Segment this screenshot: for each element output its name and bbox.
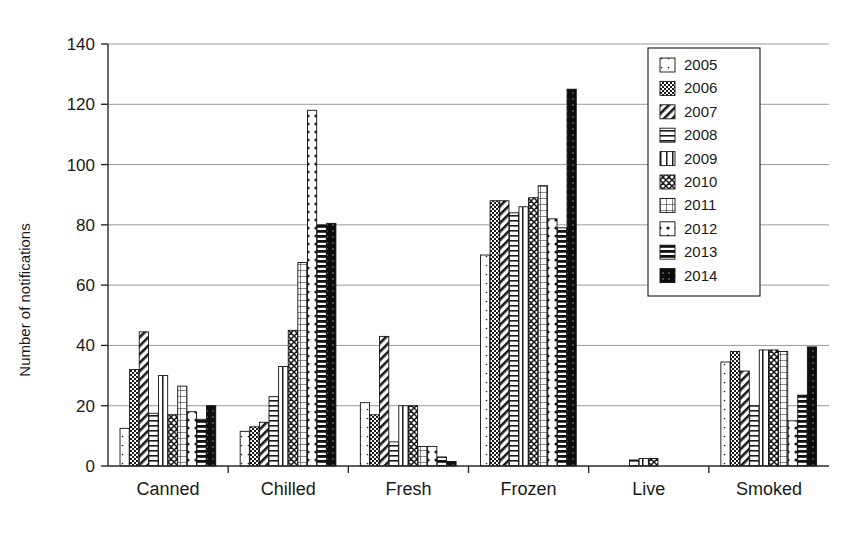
- legend-label-2013: 2013: [684, 243, 717, 260]
- bar-chilled-2006: [250, 427, 259, 466]
- bar-smoked-2014: [807, 347, 816, 466]
- bar-live-2010: [649, 458, 658, 466]
- bar-fresh-2006: [370, 415, 379, 466]
- bar-fresh-2007: [380, 336, 389, 466]
- legend-swatch-2005: [660, 58, 675, 72]
- bar-chilled-2014: [327, 223, 336, 466]
- bar-chilled-2010: [288, 330, 297, 466]
- legend-label-2014: 2014: [684, 267, 717, 284]
- bar-chilled-2007: [259, 422, 268, 466]
- bar-fresh-2012: [428, 446, 437, 466]
- bar-chilled-2011: [298, 263, 307, 466]
- bar-canned-2011: [178, 386, 187, 466]
- bar-frozen-2014: [567, 89, 576, 466]
- legend-swatch-2011: [660, 198, 675, 212]
- legend-label-2012: 2012: [684, 220, 717, 237]
- category-label-live: Live: [632, 479, 665, 499]
- bar-frozen-2005: [481, 255, 490, 466]
- legend-label-2005: 2005: [684, 56, 717, 73]
- bar-canned-2007: [139, 332, 148, 466]
- legend: 2005200620072008200920102011201220132014: [648, 48, 760, 296]
- legend-swatch-2012: [660, 222, 675, 236]
- bar-live-2009: [639, 458, 648, 466]
- bar-smoked-2006: [730, 351, 739, 466]
- legend-label-2008: 2008: [684, 126, 717, 143]
- y-tick-label-0: 0: [86, 457, 95, 476]
- bar-fresh-2009: [399, 406, 408, 466]
- bar-frozen-2009: [519, 207, 528, 466]
- legend-label-2011: 2011: [684, 196, 716, 213]
- legend-swatch-2006: [660, 81, 675, 95]
- bar-smoked-2009: [759, 350, 768, 466]
- legend-label-2006: 2006: [684, 79, 717, 96]
- legend-swatch-2014: [660, 269, 675, 283]
- bar-fresh-2005: [360, 403, 369, 466]
- y-axis-title: Number of notifications: [16, 223, 33, 376]
- legend-swatch-2008: [660, 128, 675, 142]
- bar-chart: 020406080100120140 CannedChilledFreshFro…: [0, 0, 863, 533]
- bar-chilled-2008: [269, 397, 278, 466]
- bar-chilled-2013: [317, 225, 326, 466]
- bar-canned-2006: [130, 370, 139, 466]
- bar-smoked-2008: [750, 406, 759, 466]
- legend-label-2007: 2007: [684, 103, 717, 120]
- y-tick-label-100: 100: [67, 156, 95, 175]
- legend-swatch-2010: [660, 175, 675, 189]
- bar-fresh-2008: [389, 442, 398, 466]
- bar-frozen-2010: [529, 198, 538, 466]
- y-tick-label-120: 120: [67, 95, 95, 114]
- bar-canned-2012: [187, 412, 196, 466]
- category-label-chilled: Chilled: [261, 479, 316, 499]
- legend-label-2009: 2009: [684, 150, 717, 167]
- bar-smoked-2011: [779, 351, 788, 466]
- bar-chilled-2012: [307, 110, 316, 466]
- y-tick-label-140: 140: [67, 35, 95, 54]
- bar-chilled-2009: [279, 367, 288, 466]
- bar-canned-2009: [158, 376, 167, 466]
- category-label-fresh: Fresh: [385, 479, 431, 499]
- y-axis-title-text: Number of notifications: [16, 223, 33, 376]
- bar-fresh-2013: [437, 457, 446, 466]
- legend-swatch-2009: [660, 152, 675, 166]
- category-label-smoked: Smoked: [736, 479, 802, 499]
- chart-container: 020406080100120140 CannedChilledFreshFro…: [0, 0, 863, 533]
- legend-label-2010: 2010: [684, 173, 717, 190]
- bar-canned-2008: [149, 413, 158, 466]
- y-tick-label-20: 20: [76, 397, 95, 416]
- bar-canned-2013: [197, 419, 206, 466]
- bar-frozen-2006: [490, 201, 499, 466]
- bar-fresh-2011: [418, 446, 427, 466]
- bar-frozen-2011: [538, 186, 547, 466]
- bar-smoked-2007: [740, 371, 749, 466]
- bar-frozen-2007: [500, 201, 509, 466]
- bar-canned-2010: [168, 415, 177, 466]
- bar-smoked-2013: [798, 395, 807, 466]
- bar-frozen-2008: [509, 213, 518, 466]
- bar-fresh-2010: [408, 406, 417, 466]
- bar-smoked-2010: [769, 350, 778, 466]
- bar-smoked-2012: [788, 421, 797, 466]
- y-tick-label-80: 80: [76, 216, 95, 235]
- y-tick-label-60: 60: [76, 276, 95, 295]
- bar-frozen-2012: [548, 219, 557, 466]
- bar-smoked-2005: [721, 362, 730, 466]
- legend-swatch-2013: [660, 245, 675, 259]
- bar-live-2008: [630, 460, 639, 466]
- y-tick-label-40: 40: [76, 336, 95, 355]
- bar-canned-2005: [120, 428, 129, 466]
- category-label-canned: Canned: [137, 479, 200, 499]
- bar-canned-2014: [207, 406, 216, 466]
- bar-frozen-2013: [557, 228, 566, 466]
- bar-chilled-2005: [240, 431, 249, 466]
- legend-swatch-2007: [660, 105, 675, 119]
- category-label-frozen: Frozen: [501, 479, 557, 499]
